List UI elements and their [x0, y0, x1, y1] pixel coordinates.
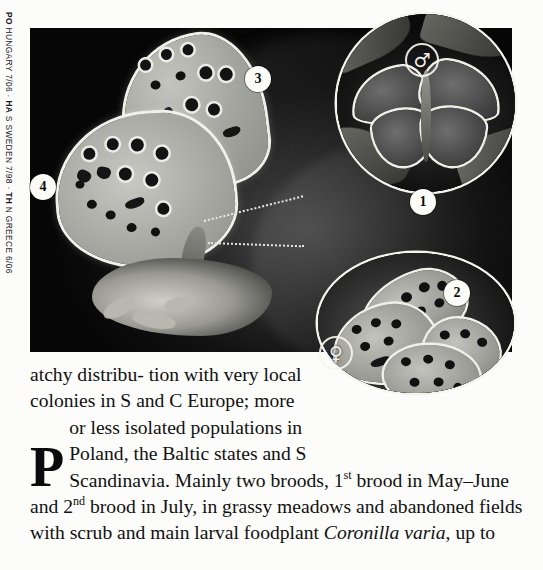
species-name-italic: Coronilla varia — [324, 522, 446, 543]
antenna-lower — [208, 242, 304, 247]
book-page: PO HUNGARY 7/06 · HA S SWEDEN 7/98 · TH … — [0, 0, 543, 570]
figure-marker-2: 2 — [444, 280, 470, 306]
paragraph-body-part-1: colonies in S and C Europe; more or less… — [30, 390, 344, 490]
credit-detail-2: S SWEDEN 7/98 · — [4, 113, 14, 192]
figure-marker-4: 4 — [30, 174, 56, 200]
male-inset — [337, 14, 515, 192]
credit-code-1: PO — [4, 12, 14, 25]
text-wrap-spacer-2 — [315, 388, 530, 414]
figure-marker-3: 3 — [245, 66, 271, 92]
ordinal-suffix-second: nd — [73, 495, 85, 509]
figure-marker-1: 1 — [410, 189, 436, 215]
text-wrap-spacer-3 — [334, 415, 530, 441]
credit-code-2: HA — [4, 100, 14, 113]
butterfly-underside — [36, 30, 326, 330]
male-body — [421, 70, 431, 162]
text-wrap-spacer-4 — [362, 441, 530, 467]
paragraph-line-2: tion with very local — [149, 364, 302, 385]
credit-code-3: TH — [4, 192, 14, 204]
male-symbol-icon: ♂ — [405, 43, 439, 77]
ordinal-suffix-first: st — [344, 468, 352, 482]
species-description-text: Patchy distribu- tion with very local co… — [30, 362, 530, 547]
drop-cap: P — [30, 445, 64, 489]
credit-detail-3: N GREECE 6/06 — [4, 204, 14, 274]
margin-photo-credit: PO HUNGARY 7/06 · HA S SWEDEN 7/98 · TH … — [2, 12, 16, 292]
credit-detail-1: HUNGARY 7/06 · — [4, 25, 14, 101]
paragraph-line-1: atchy distribu- — [30, 364, 144, 385]
paragraph-tail: , up to — [446, 522, 496, 543]
text-wrap-spacer-1 — [315, 362, 530, 388]
